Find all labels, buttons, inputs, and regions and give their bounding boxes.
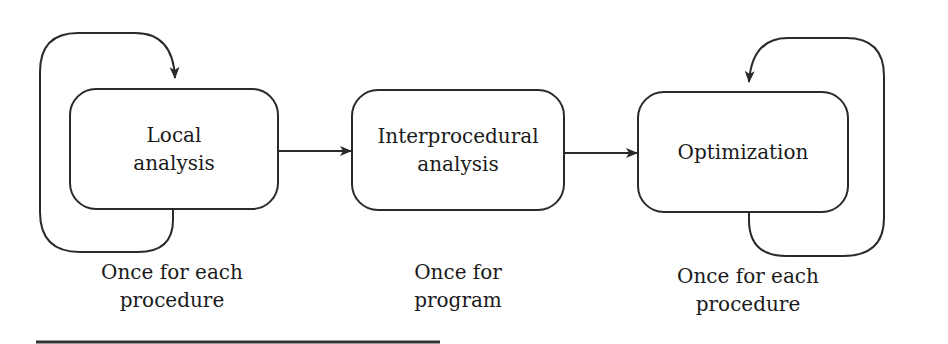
- interprocedural-caption-line-1: Once for: [358, 258, 558, 286]
- interprocedural-caption: Once for program: [358, 258, 558, 314]
- optimization-line-1: Optimization: [678, 138, 809, 166]
- optimization-caption: Once for each procedure: [648, 262, 848, 318]
- local-caption-line-2: procedure: [72, 286, 272, 314]
- optimization-caption-line-2: procedure: [648, 290, 848, 318]
- local-line-1: Local: [147, 121, 202, 149]
- interprocedural-analysis-label: Interprocedural analysis: [352, 90, 564, 210]
- optimization-caption-line-1: Once for each: [648, 262, 848, 290]
- local-caption-line-1: Once for each: [72, 258, 272, 286]
- local-caption: Once for each procedure: [72, 258, 272, 314]
- optimization-label: Optimization: [638, 92, 848, 212]
- interprocedural-line-2: analysis: [417, 150, 498, 178]
- local-line-2: analysis: [133, 149, 214, 177]
- interprocedural-caption-line-2: program: [358, 286, 558, 314]
- interprocedural-line-1: Interprocedural: [377, 122, 538, 150]
- local-analysis-label: Local analysis: [70, 89, 278, 209]
